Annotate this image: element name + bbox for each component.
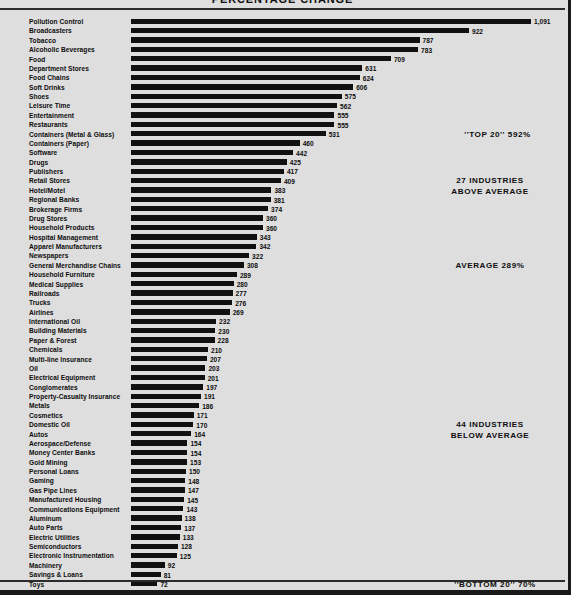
bar-category-label: Auto Parts	[29, 523, 63, 532]
bar-value-label: 150	[189, 467, 200, 476]
bar-row: Software442	[0, 148, 571, 157]
bar	[131, 337, 215, 342]
bar	[131, 169, 284, 174]
bar-category-label: Property-Casualty Insurance	[29, 392, 120, 401]
bar-category-label: Gas Pipe Lines	[29, 486, 77, 495]
annotation-below-average-line1: 44 INDUSTRIES	[415, 420, 565, 431]
bar-row: Gold Mining153	[0, 458, 571, 467]
bar-category-label: Alcoholic Beverages	[29, 45, 95, 54]
bar	[131, 487, 185, 492]
bar-value-label: 269	[233, 308, 244, 317]
bar-row: Shoes575	[0, 92, 571, 101]
bar-value-label: 137	[184, 524, 195, 533]
annotation-above-average-line1: 27 INDUSTRIES	[415, 176, 565, 187]
bar	[131, 469, 186, 474]
bar-category-label: Containers (Paper)	[29, 139, 89, 148]
bar-category-label: Savings & Loans	[29, 570, 83, 579]
bar-value-label: 531	[329, 130, 340, 139]
bar-rows: Pollution Control1,091Broadcasters922Tob…	[0, 17, 571, 595]
bar-category-label: Money Center Banks	[29, 448, 95, 457]
bar-row: Entertainment555	[0, 111, 571, 120]
bar-category-label: Trucks	[29, 298, 51, 307]
bar	[131, 197, 271, 202]
bar	[131, 103, 337, 108]
bar-row: Personal Loans150	[0, 467, 571, 476]
bar-category-label: Machinery	[29, 561, 62, 570]
bar-value-label: 138	[185, 514, 196, 523]
bar-value-label: 228	[218, 336, 229, 345]
bar-category-label: Cosmetics	[29, 411, 63, 420]
bar	[131, 112, 334, 117]
bar	[131, 37, 420, 42]
bar-value-label: 425	[290, 158, 301, 167]
bar-value-label: 230	[218, 327, 229, 336]
bar	[131, 122, 334, 127]
bar	[131, 215, 263, 220]
bar-row: Drug Stores360	[0, 214, 571, 223]
bar-category-label: Containers (Metal & Glass)	[29, 130, 114, 139]
bar-value-label: 154	[190, 439, 201, 448]
bar-row: Property-Casualty Insurance191	[0, 392, 571, 401]
bar-value-label: 360	[266, 214, 277, 223]
bar-value-label: 171	[197, 411, 208, 420]
bar-category-label: Software	[29, 148, 57, 157]
bar-row: Restaurants555	[0, 120, 571, 129]
bar	[131, 225, 263, 230]
bar-category-label: Multi-line Insurance	[29, 355, 92, 364]
bar-category-label: Food	[29, 55, 45, 64]
bar-value-label: 555	[337, 121, 348, 130]
bar-category-label: Semiconductors	[29, 542, 81, 551]
bar-value-label: 153	[190, 458, 201, 467]
bar-row: Conglomerates197	[0, 383, 571, 392]
bar	[131, 328, 215, 333]
bar	[131, 65, 362, 70]
bar-category-label: Chemicals	[29, 345, 62, 354]
bar	[131, 572, 161, 577]
bar-row: Alcoholic Beverages783	[0, 45, 571, 54]
bar-row: Semiconductors128	[0, 542, 571, 551]
bar-value-label: 277	[236, 289, 247, 298]
bottom-divider	[0, 580, 565, 582]
bar-row: Household Furniture289	[0, 270, 571, 279]
bar-row: Gaming148	[0, 476, 571, 485]
bar-value-label: 442	[296, 149, 307, 158]
bar-value-label: 203	[208, 364, 219, 373]
bar-value-label: 289	[240, 271, 251, 280]
bar-value-label: 201	[208, 374, 219, 383]
bar	[131, 553, 177, 558]
bar-row: International Oil232	[0, 317, 571, 326]
annotation-average: AVERAGE 289%	[415, 261, 565, 272]
bar	[131, 515, 182, 520]
bar	[131, 356, 207, 361]
bar	[131, 47, 418, 52]
bar-value-label: 575	[345, 92, 356, 101]
bar-category-label: Airlines	[29, 308, 54, 317]
bar	[131, 28, 469, 33]
bar-row: Apparel Manufacturers342	[0, 242, 571, 251]
annotation-top-20: ''TOP 20'' 592%	[430, 130, 565, 141]
bar-category-label: Hotel/Motel	[29, 186, 65, 195]
bar	[131, 234, 257, 239]
bar-category-label: Soft Drinks	[29, 83, 65, 92]
bar-category-label: Electric Utilities	[29, 533, 79, 542]
bar-value-label: 343	[260, 233, 271, 242]
bar-row: Railroads277	[0, 289, 571, 298]
bar-category-label: Newspapers	[29, 251, 68, 260]
bar-row: Money Center Banks154	[0, 448, 571, 457]
bar-category-label: Railroads	[29, 289, 60, 298]
bar-category-label: Gold Mining	[29, 458, 68, 467]
bar	[131, 178, 281, 183]
bar-category-label: Shoes	[29, 92, 49, 101]
bar-category-label: Publishers	[29, 167, 63, 176]
bar-category-label: Aerospace/Defense	[29, 439, 91, 448]
bar	[131, 131, 326, 136]
bar-value-label: 186	[202, 402, 213, 411]
bar-category-label: Medical Supplies	[29, 280, 83, 289]
bar-value-label: 143	[186, 505, 197, 514]
bar-value-label: 417	[287, 167, 298, 176]
bar-row: Tobacco787	[0, 36, 571, 45]
bar-row: Communications Equipment143	[0, 505, 571, 514]
bar	[131, 431, 191, 436]
bar-value-label: 709	[394, 55, 405, 64]
bar-category-label: Broadcasters	[29, 26, 72, 35]
